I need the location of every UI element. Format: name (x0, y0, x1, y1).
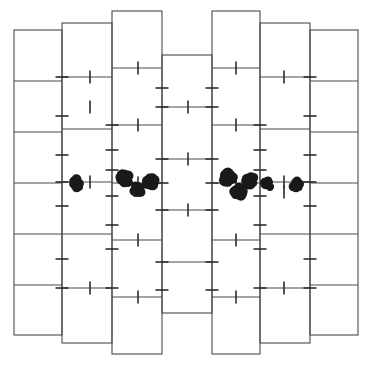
cluster-6-lobe-9 (249, 173, 258, 182)
cluster-7-lobe-9 (237, 186, 248, 197)
cluster-5-lobe-9 (229, 173, 238, 182)
cluster-3-lobe-9 (149, 175, 160, 186)
cluster-1-lobe-9 (76, 179, 84, 187)
cluster-9-lobe-9 (297, 180, 304, 187)
figure-root (0, 0, 372, 367)
cluster-8-lobe-9 (268, 179, 273, 184)
cluster-2-lobe-9 (123, 171, 134, 182)
diagram-canvas (0, 0, 372, 367)
cluster-4-lobe-9 (137, 185, 143, 191)
